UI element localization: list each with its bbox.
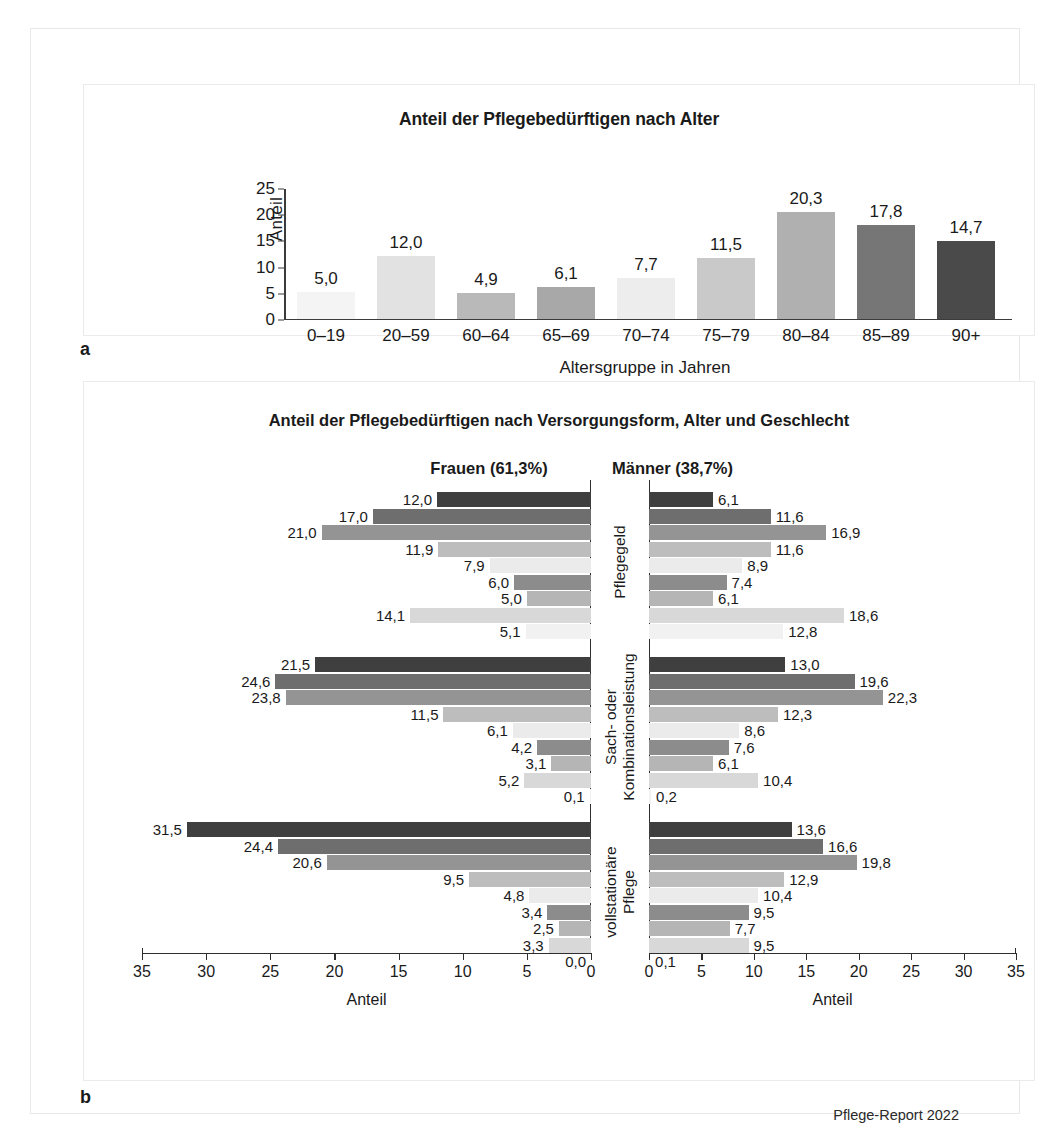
panel-b-x-tick-label: 10 xyxy=(454,963,472,981)
panel-b-bar xyxy=(373,509,591,524)
panel-b-bar-row: 3,1 xyxy=(142,756,591,771)
panel-a-bar-value: 4,9 xyxy=(474,270,498,290)
panel-b-bar xyxy=(649,773,758,788)
panel-b-bar-value: 7,6 xyxy=(729,740,760,755)
panel-b-bar-row: 4,8 xyxy=(142,888,591,903)
panel-b-x-tick-label: 0 xyxy=(645,963,654,981)
panel-b-bar-value: 19,6 xyxy=(855,674,894,689)
panel-b-category-label-line: Sach- oder xyxy=(602,654,620,801)
panel-b-x-tick-label: 35 xyxy=(1007,963,1025,981)
panel-b-bar-row: 18,6 xyxy=(649,608,1016,623)
panel-b-bar xyxy=(649,575,727,590)
panel-b-bar xyxy=(438,542,591,557)
panel-a-bar-value: 11,5 xyxy=(710,235,742,255)
panel-b-bar-value: 19,8 xyxy=(857,855,896,870)
panel-b-bar-row: 12,0 xyxy=(142,492,591,507)
panel-a-plot-area: Anteil 0510152025 5,00–1912,020–594,960–… xyxy=(284,189,1006,320)
panel-b-bar-row: 20,6 xyxy=(142,855,591,870)
panel-a-y-tick-mark xyxy=(278,320,284,321)
panel-a-category-label: 90+ xyxy=(926,326,1006,346)
panel-a-bar-value: 6,1 xyxy=(554,264,578,284)
panel-b-bar-value: 13,0 xyxy=(785,657,824,672)
panel-b-bar xyxy=(286,690,591,705)
panel-b-bar xyxy=(649,921,730,936)
panel-b-x-tick-mark xyxy=(754,953,755,960)
panel-b-x-tick-label: 10 xyxy=(745,963,763,981)
panel-a-bar: 11,5 xyxy=(697,258,755,318)
panel-a-category-label: 85–89 xyxy=(846,326,926,346)
figure-outer-frame: Anteil der Pflegebedürftigen nach Alter … xyxy=(30,28,1020,1114)
panel-b-bar-row: 10,4 xyxy=(649,888,1016,903)
panel-a-category-label: 75–79 xyxy=(686,326,766,346)
panel-b-bar xyxy=(524,773,591,788)
panel-b-bar-row: 7,4 xyxy=(649,575,1016,590)
panel-b-bar-value: 6,1 xyxy=(713,591,744,606)
panel-b-x-tick-label: 25 xyxy=(902,963,920,981)
panel-b-x-tick-mark xyxy=(527,953,528,960)
panel-b-x-tick-label: 25 xyxy=(261,963,279,981)
panel-b-bar xyxy=(649,822,792,837)
panel-b-bar-row: 16,9 xyxy=(649,525,1016,540)
panel-b-bar-value: 3,1 xyxy=(520,756,551,771)
panel-b-bar xyxy=(649,558,742,573)
panel-b-bar-row: 14,1 xyxy=(142,608,591,623)
panel-b-bar xyxy=(649,690,883,705)
panel-b-bar-row: 9,5 xyxy=(649,938,1016,953)
panel-b-bar xyxy=(649,509,771,524)
panel-b-bar-value: 14,1 xyxy=(371,608,410,623)
panel-a-bar: 12,0 xyxy=(377,256,435,319)
panel-b-axis-endcap xyxy=(1015,948,1016,954)
panel-b-bar xyxy=(649,542,771,557)
panel-b-bar-value: 2,5 xyxy=(528,921,559,936)
panel-b-bar-value: 22,3 xyxy=(883,690,922,705)
panel-b-bar-value: 11,6 xyxy=(771,509,809,524)
panel-b-bar xyxy=(529,888,591,903)
panel-a-y-tick-label: 0 xyxy=(266,310,275,330)
panel-b-bar-row: 6,1 xyxy=(649,756,1016,771)
panel-a-y-tick-label: 25 xyxy=(256,179,275,199)
panel-b-bar-value: 7,9 xyxy=(459,558,490,573)
panel-a-y-tick-mark xyxy=(278,189,284,190)
panel-a-x-axis-label: Altersgruppe in Jahren xyxy=(284,358,1006,378)
panel-b-bar-value: 7,7 xyxy=(730,921,761,936)
panel-b-bar xyxy=(649,657,785,672)
panel-b-bar xyxy=(649,872,784,887)
panel-b-bar-row: 11,6 xyxy=(649,509,1016,524)
panel-b-bar xyxy=(322,525,591,540)
panel-b-bar xyxy=(649,624,783,639)
panel-b-bar xyxy=(549,938,591,953)
panel-b-bar-value: 3,4 xyxy=(517,905,548,920)
panel-a-bar-group: 4,960–64 xyxy=(446,189,526,319)
panel-b-bar-value: 10,4 xyxy=(758,773,797,788)
panel-b-bar xyxy=(649,756,713,771)
panel-b-bar-row: 7,7 xyxy=(649,921,1016,936)
panel-b-bar-row: 31,5 xyxy=(142,822,591,837)
panel-a-container: Anteil der Pflegebedürftigen nach Alter … xyxy=(83,84,1035,336)
panel-b-axis-endcap xyxy=(142,948,143,954)
panel-b-x-tick-label: 20 xyxy=(850,963,868,981)
panel-b-x-tick-label: 30 xyxy=(955,963,973,981)
panel-b-bar xyxy=(537,740,591,755)
panel-a-bar-group: 17,885–89 xyxy=(846,189,926,319)
panel-b-bar xyxy=(649,938,749,953)
panel-b-bar-value: 8,9 xyxy=(742,558,773,573)
panel-b-x-tick-mark xyxy=(701,953,702,960)
panel-b-bar xyxy=(469,872,591,887)
panel-b-bar-value: 7,4 xyxy=(727,575,758,590)
panel-b-x-tick-mark xyxy=(399,953,400,960)
panel-a-bar: 20,3 xyxy=(777,212,835,318)
panel-b-bar-row: 23,8 xyxy=(142,690,591,705)
panel-a-bar-value: 20,3 xyxy=(789,189,822,209)
panel-b-bar xyxy=(649,723,739,738)
panel-a-bar: 4,9 xyxy=(457,293,515,319)
panel-b-bar-value: 8,6 xyxy=(739,723,770,738)
panel-a-title: Anteil der Pflegebedürftigen nach Alter xyxy=(84,109,1034,130)
panel-b-category-label: vollstationärePflege xyxy=(602,847,638,938)
panel-b-x-axis-label: Anteil xyxy=(773,991,893,1009)
panel-b-bar-row: 12,9 xyxy=(649,872,1016,887)
panel-b-bar-row: 4,2 xyxy=(142,740,591,755)
panel-b-bar-value: 16,6 xyxy=(823,839,862,854)
panel-b-bar-value: 6,1 xyxy=(482,723,513,738)
panel-b-bar xyxy=(514,575,591,590)
panel-b-bar xyxy=(649,855,857,870)
